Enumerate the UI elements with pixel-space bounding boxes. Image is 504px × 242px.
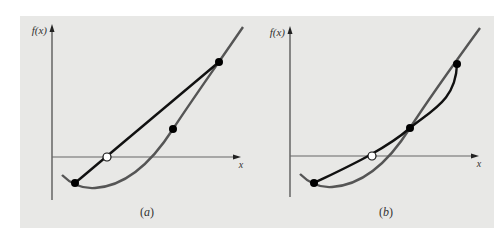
y-axis-label-a: f(x) — [32, 24, 48, 37]
root-estimate-b — [368, 152, 376, 160]
y-axis-label-b: f(x) — [270, 26, 286, 39]
function-curve-b — [300, 28, 480, 187]
quadratic-interpolant-b — [314, 64, 457, 183]
point-middle-a — [169, 125, 177, 133]
secant-line-a — [75, 62, 219, 183]
function-curve-a — [62, 27, 243, 188]
point-upper-b — [453, 60, 461, 68]
point-lower-b — [310, 179, 318, 187]
point-middle-b — [406, 124, 414, 132]
x-axis-label-b: x — [476, 158, 482, 169]
caption-a: (a) — [140, 205, 154, 219]
x-axis-label-a: x — [238, 159, 244, 170]
panel-a: f(x) x (a) — [32, 24, 244, 219]
root-estimate-a — [103, 153, 111, 161]
y-axis-arrow-icon — [288, 26, 293, 34]
caption-b: (b) — [379, 205, 393, 219]
interpolation-diagram: f(x) x (a) f(x) x (b) — [0, 0, 504, 242]
panel-b: f(x) x (b) — [270, 26, 482, 219]
point-lower-a — [71, 179, 79, 187]
y-axis-arrow-icon — [50, 24, 55, 32]
point-upper-a — [215, 58, 223, 66]
